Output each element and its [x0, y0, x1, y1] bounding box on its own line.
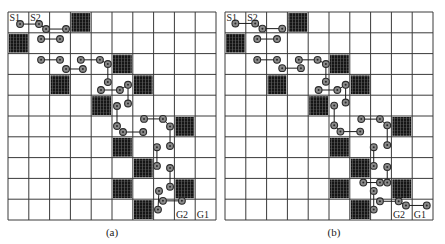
path-node-center — [325, 63, 327, 65]
label-g1: G1 — [414, 209, 426, 220]
obstacle-cell — [288, 13, 307, 32]
obstacle-cell — [309, 96, 328, 115]
obstacle-cell — [392, 179, 411, 198]
path-node-center — [318, 89, 320, 91]
path-node-center — [281, 67, 283, 69]
obstacle-cell — [330, 55, 349, 74]
path-node-center — [379, 118, 381, 120]
label-g2: G2 — [393, 209, 405, 220]
path-node-center — [333, 124, 335, 126]
path-node-center — [373, 209, 375, 211]
path-node-center — [345, 84, 347, 86]
obstacle-cell — [268, 75, 287, 94]
obstacle-cell — [351, 200, 370, 219]
path-node-center — [339, 131, 341, 133]
path-node-center — [261, 28, 263, 30]
path-node-center — [386, 182, 388, 184]
path-node-center — [405, 204, 407, 206]
grid-b: S1S2G2G1 — [0, 0, 445, 226]
path-node-center — [281, 28, 283, 30]
path-node-center — [359, 131, 361, 133]
path-node-center — [333, 105, 335, 107]
path-node-center — [379, 182, 381, 184]
path-node-center — [426, 204, 428, 206]
obstacle-cell — [351, 159, 370, 178]
path-node-center — [317, 59, 319, 61]
path-node-center — [256, 59, 258, 61]
path-node-center — [362, 182, 364, 184]
caption-b: (b) — [314, 226, 354, 238]
path-node-center — [256, 38, 258, 40]
path-node-center — [300, 67, 302, 69]
path-node-center — [298, 59, 300, 61]
obstacle-cell — [351, 75, 370, 94]
path-node-center — [276, 38, 278, 40]
path-node-center — [336, 89, 338, 91]
path-node-center — [386, 144, 388, 146]
path-node-center — [373, 165, 375, 167]
path-node-center — [360, 118, 362, 120]
path-node-center — [386, 166, 388, 168]
path-node-center — [345, 101, 347, 103]
path-node-center — [373, 146, 375, 148]
obstacle-cell — [226, 34, 245, 53]
obstacle-cell — [330, 138, 349, 157]
path-node-center — [373, 190, 375, 192]
path-node-center — [398, 200, 400, 202]
panel-b: S1S2G2G1 — [0, 0, 445, 226]
label-s1: S1 — [227, 12, 238, 23]
path-node-center — [325, 81, 327, 83]
path-node-center — [379, 200, 381, 202]
obstacle-cell — [392, 117, 411, 136]
path-node-center — [276, 59, 278, 61]
path-node-center — [386, 124, 388, 126]
obstacle-cell — [330, 179, 349, 198]
caption-a: (a) — [92, 226, 132, 238]
label-s2: S2 — [247, 12, 258, 23]
